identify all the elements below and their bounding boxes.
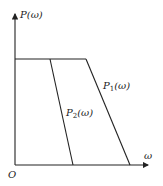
p2-label: P2(ω) (65, 107, 93, 120)
origin-label: O (8, 169, 16, 180)
x-axis-label: ω (144, 150, 152, 161)
y-axis-label: P(ω) (19, 9, 43, 20)
p1-label: P1(ω) (102, 80, 130, 93)
diagram: P(ω) ω O P1(ω) P2(ω) (0, 0, 163, 186)
